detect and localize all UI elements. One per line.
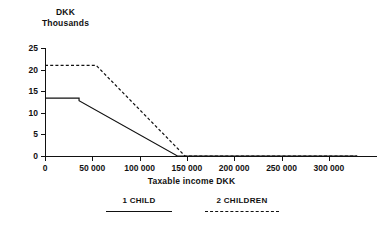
legend-item-2-children: 2 CHILDREN [205,196,279,214]
chart-legend: 1 CHILD 2 CHILDREN [0,196,383,226]
series-1-child-line [45,98,357,156]
legend-label-2-children: 2 CHILDREN [205,196,279,205]
legend-label-1-child: 1 CHILD [106,196,172,205]
legend-item-1-child: 1 CHILD [106,196,172,214]
legend-swatch-2-children [205,211,279,214]
legend-swatch-1-child [106,211,172,214]
series-2-children-line [45,65,357,156]
chart-figure: DKK Thousands 25 20 15 10 5 0 0 50 000 1… [0,0,383,234]
